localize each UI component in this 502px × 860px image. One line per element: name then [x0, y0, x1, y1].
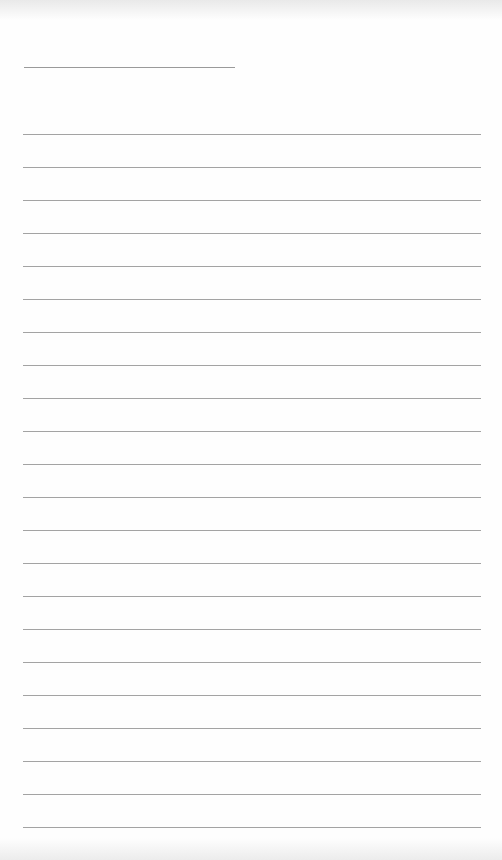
ruled-line — [23, 794, 481, 795]
ruled-line — [23, 563, 481, 564]
scan-edge-bottom — [0, 838, 502, 860]
ruled-line — [23, 233, 481, 234]
ruled-line — [23, 530, 481, 531]
lined-paper-page — [0, 0, 502, 860]
ruled-line — [23, 695, 481, 696]
title-line — [24, 67, 235, 68]
ruled-line — [23, 398, 481, 399]
ruled-line — [23, 200, 481, 201]
scan-edge-top — [0, 0, 502, 20]
ruled-line — [23, 134, 481, 135]
ruled-line — [23, 827, 481, 828]
ruled-line — [23, 761, 481, 762]
ruled-line — [23, 662, 481, 663]
ruled-line — [23, 629, 481, 630]
ruled-line — [23, 332, 481, 333]
ruled-line — [23, 167, 481, 168]
ruled-line — [23, 431, 481, 432]
ruled-line — [23, 299, 481, 300]
ruled-line — [23, 464, 481, 465]
ruled-line — [23, 596, 481, 597]
ruled-line — [23, 497, 481, 498]
ruled-line — [23, 365, 481, 366]
ruled-line — [23, 728, 481, 729]
ruled-line — [23, 266, 481, 267]
